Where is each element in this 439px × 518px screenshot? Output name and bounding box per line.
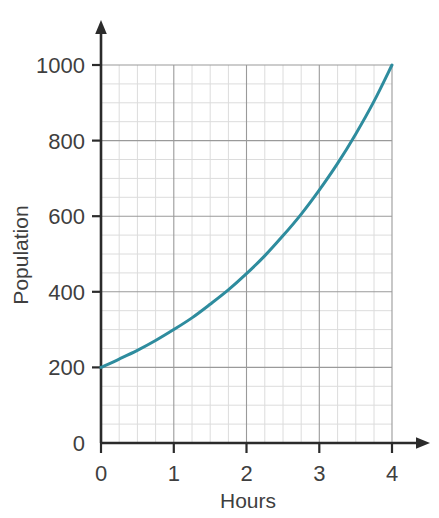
y-tick-label-400: 400 bbox=[48, 280, 85, 305]
x-tick-label-1: 1 bbox=[168, 461, 180, 486]
x-tick-label-0: 0 bbox=[95, 461, 107, 486]
x-axis-title: Hours bbox=[220, 489, 276, 512]
x-axis-arrowhead bbox=[416, 437, 430, 449]
y-axis-arrowhead bbox=[95, 20, 107, 34]
x-tick-label-4: 4 bbox=[386, 461, 398, 486]
y-tick-label-0: 0 bbox=[73, 431, 85, 456]
population-hours-line-chart: 1000 800 600 400 200 0 0 1 2 3 4 Hours P… bbox=[0, 0, 439, 518]
y-tick-label-800: 800 bbox=[48, 129, 85, 154]
x-tick-label-3: 3 bbox=[313, 461, 325, 486]
y-tick-label-200: 200 bbox=[48, 355, 85, 380]
x-tick-label-2: 2 bbox=[240, 461, 252, 486]
y-tick-label-1000: 1000 bbox=[36, 53, 85, 78]
y-axis-ticks bbox=[92, 65, 101, 367]
y-axis-title: Population bbox=[9, 205, 32, 304]
x-axis-ticks bbox=[101, 443, 392, 453]
chart-container: 1000 800 600 400 200 0 0 1 2 3 4 Hours P… bbox=[0, 0, 439, 518]
y-tick-label-600: 600 bbox=[48, 204, 85, 229]
